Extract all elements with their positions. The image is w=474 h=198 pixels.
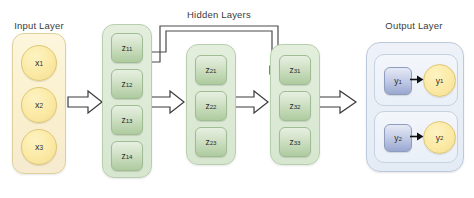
hidden-layers-label: Hidden Layers (176, 9, 262, 20)
hidden-node-z12-sub: 12 (126, 81, 133, 88)
hidden-node-z14: z14 (111, 141, 143, 171)
output-square-y2-sub: 2 (398, 135, 401, 142)
hidden-node-z31-sub: 31 (294, 67, 301, 74)
hidden-layer-1-panel: z11 z12 z13 z14 (102, 24, 152, 178)
output-arrow-2 (410, 131, 424, 142)
output-arrow-1 (410, 74, 424, 85)
output-unit-2: y2 y2 (374, 111, 458, 163)
neural-network-diagram: Input Layer x1 x2 x3 Hidden Layers z11 z… (0, 0, 474, 198)
hidden-node-z32-sub: 32 (294, 103, 301, 110)
hidden-node-z13-sub: 13 (126, 117, 133, 124)
hidden-node-z22-sub: 22 (210, 103, 217, 110)
output-circle-y2: y2 (423, 121, 456, 154)
input-layer-panel: x1 x2 x3 (12, 33, 66, 174)
hidden-node-z21: z21 (195, 55, 227, 85)
hidden-node-z32: z32 (279, 91, 311, 121)
hidden-node-z23: z23 (195, 127, 227, 157)
hidden-node-z23-sub: 23 (210, 139, 217, 146)
input-node-x1-sub: 1 (39, 60, 43, 67)
input-node-x3: x3 (21, 129, 57, 165)
output-square-y1: y1 (384, 67, 412, 95)
hidden-node-z31: z31 (279, 55, 311, 85)
input-layer-label: Input Layer (10, 20, 68, 31)
hidden-node-z11-sub: 11 (126, 45, 132, 52)
output-layer-panel: y1 y1 y2 y2 (366, 42, 464, 172)
output-square-y2: y2 (384, 124, 412, 152)
hidden-layer-2-panel: z21 z22 z23 (186, 44, 236, 165)
hidden-layer-3-panel: z31 z32 z33 (270, 44, 320, 165)
hidden-node-z33: z33 (279, 127, 311, 157)
output-layer-label: Output Layer (374, 20, 454, 31)
hidden-node-z11: z11 (111, 33, 143, 63)
hidden-node-z33-sub: 33 (294, 139, 301, 146)
hidden-node-z22: z22 (195, 91, 227, 121)
hidden-node-z21-sub: 21 (210, 67, 217, 74)
arrow-input-to-hidden1 (68, 91, 102, 113)
arrow-hidden2-to-hidden3 (234, 91, 268, 113)
arrow-hidden3-to-output (318, 91, 356, 113)
hidden-node-z12: z12 (111, 69, 143, 99)
hidden-node-z13: z13 (111, 105, 143, 135)
output-circle-y2-sub: 2 (440, 134, 443, 141)
output-circle-y1: y1 (423, 64, 456, 97)
output-square-y1-sub: 1 (398, 78, 401, 85)
output-circle-y1-sub: 1 (440, 77, 443, 84)
input-node-x1: x1 (21, 45, 57, 81)
input-node-x2-sub: 2 (39, 102, 43, 109)
arrow-hidden1-to-hidden2 (150, 91, 184, 113)
input-node-x3-sub: 3 (39, 144, 43, 151)
output-unit-1: y1 y1 (374, 54, 458, 106)
input-node-x2: x2 (21, 87, 57, 123)
hidden-node-z14-sub: 14 (126, 153, 133, 160)
